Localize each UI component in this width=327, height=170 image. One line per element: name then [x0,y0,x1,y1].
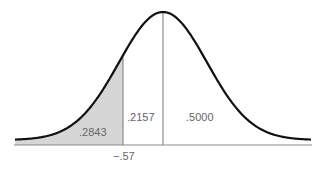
z-value-label: −.57 [113,151,135,162]
normal-curve-diagram [0,0,327,170]
right-half-area-label: .5000 [186,112,214,123]
between-area-label: .2157 [127,112,155,123]
shaded-left-tail-region [15,55,123,145]
left-tail-area-label: .2843 [79,127,107,138]
